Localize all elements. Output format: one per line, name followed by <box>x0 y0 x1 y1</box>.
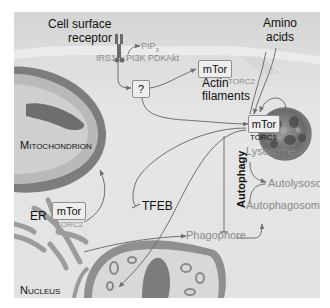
mitochondrion <box>14 66 106 192</box>
pdk-label: PDK <box>148 54 167 63</box>
er-label: ER <box>30 210 47 222</box>
amino-acids-line1: Amino <box>260 17 300 29</box>
amino-acids-line2: acids <box>260 31 300 43</box>
mitochondrion-label: Mitochondrion <box>20 140 92 151</box>
tfeb-label: TFEB <box>142 200 173 212</box>
cell-surface-line1: Cell surface <box>48 18 92 30</box>
actin-line2: filaments <box>202 90 250 102</box>
cell-surface-line2: receptor <box>68 32 112 44</box>
nucleus-label: Nucleus <box>20 285 60 296</box>
pi3k-label: PI3K <box>126 54 146 63</box>
pip3-text: PIP <box>141 41 156 51</box>
lysosome-label: Lysosome <box>246 146 296 157</box>
autophagosome-label: Autophagosome <box>246 200 320 211</box>
amino-acids-label: Amino acids <box>260 17 300 43</box>
cell-surface-receptor-label: Cell surface receptor <box>68 18 112 44</box>
actin-filaments-label: Actin filaments <box>202 77 250 102</box>
mtor-torc1-box: mTor <box>248 115 280 133</box>
pip3-label: PIP3 <box>141 42 159 53</box>
unknown-factor-box: ? <box>132 80 150 98</box>
autolysosome-label: Autolysosome <box>268 178 320 189</box>
phagophore-label: Phagophore <box>186 230 246 241</box>
irs1-label: IRS1 <box>96 54 116 63</box>
mtor-torc2-er-box: mTor <box>52 202 86 220</box>
torc2-er-label: TORC2 <box>56 221 83 229</box>
pip3-subscript: 3 <box>156 47 159 53</box>
torc1-label: TORC1 <box>250 134 277 142</box>
actin-line1: Actin <box>202 77 250 89</box>
diagram-panel: Cell surface receptor Amino acids IRS1 P… <box>14 12 320 298</box>
akt-label: Akt <box>166 54 179 63</box>
